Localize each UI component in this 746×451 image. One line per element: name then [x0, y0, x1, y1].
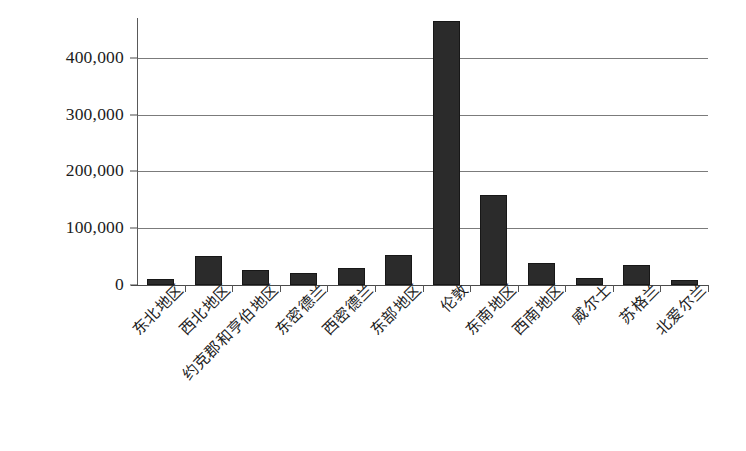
- y-axis-tick-labels: 0100,000200,000300,000400,000: [0, 0, 132, 451]
- x-axis-category-label-text: 苏格兰: [618, 282, 663, 327]
- y-axis-tick-label: 0: [0, 276, 124, 294]
- x-axis-category-label-text: 威尔士: [570, 282, 615, 327]
- x-axis-category-labels: 东北地区西北地区约克郡和亨伯地区东密德兰西密德兰东部地区伦敦东南地区西南地区威尔…: [137, 285, 727, 445]
- x-axis-category-label-text: 东北地区: [130, 282, 186, 338]
- x-axis-category-label-text: 伦敦: [438, 282, 472, 316]
- y-axis-tick-label: 300,000: [0, 106, 124, 124]
- y-axis-tick-label: 400,000: [0, 49, 124, 67]
- y-axis-tick-label: 200,000: [0, 163, 124, 181]
- y-axis-tick-label: 100,000: [0, 219, 124, 237]
- x-axis-category-label-text: 约克郡和亨伯地区: [180, 282, 281, 383]
- bar-chart: 0100,000200,000300,000400,000 东北地区西北地区约克…: [0, 0, 746, 451]
